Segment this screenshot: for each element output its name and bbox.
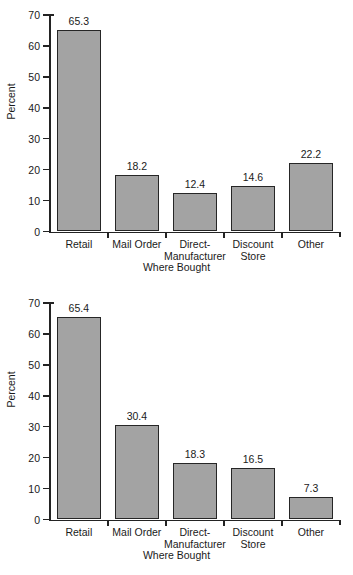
y-tick-label: 10 xyxy=(28,196,40,207)
y-tick-label: 30 xyxy=(28,422,40,433)
bar-value-label: 65.4 xyxy=(49,303,109,314)
y-tick-label: 70 xyxy=(28,10,40,21)
bar xyxy=(231,186,275,231)
x-category-label-line: Retail xyxy=(65,526,92,538)
x-axis-right-cap xyxy=(339,232,341,237)
y-tick xyxy=(43,395,49,397)
x-category-label-line: Other xyxy=(298,526,324,538)
x-category-label: Other xyxy=(271,238,351,250)
y-tick xyxy=(43,488,49,490)
y-axis-line xyxy=(49,14,51,233)
y-tick xyxy=(43,457,49,459)
bar xyxy=(57,317,101,519)
y-tick-label: 30 xyxy=(28,134,40,145)
chart-page: Percent 010203040506070 65.318.212.414.6… xyxy=(0,0,353,575)
x-category-label-line: Store xyxy=(213,538,293,550)
x-category-label-line: Direct- xyxy=(179,238,210,250)
x-axis-title: Where Bought xyxy=(0,262,353,273)
bar xyxy=(57,30,101,232)
bar xyxy=(115,425,159,519)
bar-chart-top: Percent 010203040506070 65.318.212.414.6… xyxy=(0,0,353,285)
y-tick xyxy=(43,107,49,109)
y-tick xyxy=(43,519,49,521)
bar-value-label: 22.2 xyxy=(281,149,341,160)
x-axis-right-cap xyxy=(339,520,341,525)
y-tick-label: 40 xyxy=(28,103,40,114)
y-tick xyxy=(43,231,49,233)
bar-value-label: 18.3 xyxy=(165,449,225,460)
bar xyxy=(173,463,217,520)
y-tick-label: 40 xyxy=(28,391,40,402)
y-tick xyxy=(43,333,49,335)
y-tick-label: 50 xyxy=(28,72,40,83)
bar-value-label: 16.5 xyxy=(223,454,283,465)
y-tick xyxy=(43,45,49,47)
y-axis-line xyxy=(49,302,51,521)
y-tick-label: 60 xyxy=(28,329,40,340)
y-tick-label: 10 xyxy=(28,484,40,495)
bar-value-label: 18.2 xyxy=(107,161,167,172)
bar-value-label: 14.6 xyxy=(223,172,283,183)
y-tick xyxy=(43,138,49,140)
y-tick-label: 50 xyxy=(28,360,40,371)
y-tick xyxy=(43,200,49,202)
y-tick xyxy=(43,426,49,428)
y-tick-label: 20 xyxy=(28,165,40,176)
bar xyxy=(115,175,159,231)
bar-value-label: 30.4 xyxy=(107,411,167,422)
y-tick-label: 0 xyxy=(34,515,40,526)
x-category-label-line: Retail xyxy=(65,238,92,250)
bar xyxy=(173,193,217,231)
x-category-label: Other xyxy=(271,526,351,538)
x-axis-line xyxy=(49,232,341,234)
x-category-label-line: Direct- xyxy=(179,526,210,538)
y-tick-label: 0 xyxy=(34,227,40,238)
y-tick-label: 20 xyxy=(28,453,40,464)
y-axis-title: Percent xyxy=(6,355,17,425)
bar-chart-bottom: Percent 010203040506070 65.430.418.316.5… xyxy=(0,288,353,573)
bar xyxy=(289,497,333,520)
x-category-label-line: Discount xyxy=(233,238,274,250)
y-tick xyxy=(43,169,49,171)
bar xyxy=(289,163,333,232)
x-category-label-line: Discount xyxy=(233,526,274,538)
x-category-label-line: Other xyxy=(298,238,324,250)
bar-value-label: 12.4 xyxy=(165,179,225,190)
bar-value-label: 65.3 xyxy=(49,16,109,27)
y-tick-label: 70 xyxy=(28,298,40,309)
y-axis-title: Percent xyxy=(6,67,17,137)
x-axis-line xyxy=(49,520,341,522)
bar xyxy=(231,468,275,519)
x-category-label-line: Store xyxy=(213,250,293,262)
x-axis-title: Where Bought xyxy=(0,550,353,561)
y-tick xyxy=(43,76,49,78)
y-tick xyxy=(43,364,49,366)
y-tick-label: 60 xyxy=(28,41,40,52)
bar-value-label: 7.3 xyxy=(281,483,341,494)
